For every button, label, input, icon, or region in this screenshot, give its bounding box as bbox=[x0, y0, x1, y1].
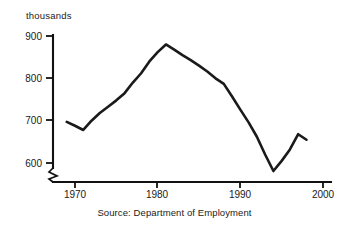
source-note: Source: Department of Employment bbox=[0, 207, 349, 218]
y-axis-break-icon bbox=[49, 168, 57, 182]
employment-data-line bbox=[67, 44, 307, 171]
employment-line-chart: thousands 900 800 700 600 1970 1980 1990… bbox=[0, 0, 349, 228]
plot-area bbox=[0, 0, 349, 228]
